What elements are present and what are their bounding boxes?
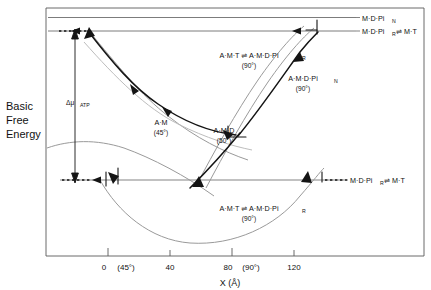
state-label-md-pi-n-sub: N bbox=[392, 18, 396, 24]
state-label-amd-pi-n-text: A·M·D·Pi bbox=[288, 74, 318, 83]
state-label-md-pi-r-lower-suffix: ⇌ M·T bbox=[384, 176, 405, 185]
state-label-amd-pi-n-angle: (90°) bbox=[296, 85, 310, 93]
delta-mu-symbol: Δμ bbox=[66, 99, 74, 107]
xtick-label-120: 120 bbox=[287, 263, 301, 272]
y-axis-label-line3: Energy bbox=[6, 128, 41, 140]
state-label-md-pi-r-top-text: M·D·Pi bbox=[362, 27, 385, 36]
figure-background bbox=[0, 0, 431, 290]
x-axis-title: X (Å) bbox=[220, 278, 241, 288]
state-label-amt-amdpir-lower-angle: (90°) bbox=[242, 215, 256, 223]
state-label-amd-50-angle: (50°) bbox=[217, 137, 231, 145]
state-label-amd-50-text: A·M·D bbox=[214, 126, 235, 135]
state-label-am-45-angle: (45°) bbox=[154, 129, 168, 137]
delta-mu-subscript: ATP bbox=[80, 102, 90, 108]
free-energy-diagram: Basic Free Energy Δμ ATP M·D·Pi N M·D·Pi… bbox=[0, 0, 431, 290]
figure-container: Basic Free Energy Δμ ATP M·D·Pi N M·D·Pi… bbox=[0, 0, 431, 290]
state-label-amt-amdpir-lower-text: A·M·T ⇌ A·M·D·Pi bbox=[220, 204, 279, 213]
xtick-label-40: 40 bbox=[166, 263, 175, 272]
state-label-md-pi-r-top-suffix: ⇌ M·T bbox=[396, 27, 417, 36]
y-axis-label-line1: Basic bbox=[6, 100, 33, 112]
state-label-amt-amdpir-upper-angle: (90°) bbox=[242, 62, 256, 70]
xtick-angle-0: (45°) bbox=[117, 263, 135, 272]
y-axis-label-line2: Free bbox=[6, 114, 29, 126]
state-label-amt-amdpir-upper-sub: R bbox=[302, 55, 306, 61]
state-label-amd-pi-n-sub: N bbox=[334, 78, 338, 84]
state-label-md-pi-n-text: M·D·Pi bbox=[362, 14, 385, 23]
state-label-md-pi-r-lower-text: M·D·Pi bbox=[350, 176, 373, 185]
xtick-label-0: 0 bbox=[102, 263, 107, 272]
state-label-amt-amdpir-lower-sub: R bbox=[302, 208, 306, 214]
xtick-label-80: 80 bbox=[224, 263, 233, 272]
state-label-am-45-text: A·M bbox=[154, 118, 167, 127]
state-label-amt-amdpir-upper-text: A·M·T ⇌ A·M·D·Pi bbox=[220, 51, 279, 60]
xtick-angle-80: (90°) bbox=[242, 263, 260, 272]
